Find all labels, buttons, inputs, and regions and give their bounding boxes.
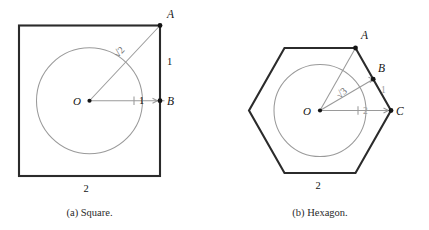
panel-hexagon: O A B C √3 1 2 2 (b) Hexagon. bbox=[249, 29, 404, 219]
hexagon-center-dot bbox=[318, 108, 322, 112]
square-side-measure: 2 bbox=[83, 183, 88, 194]
hexagon-side-measure: 2 bbox=[315, 180, 320, 191]
square-center-dot bbox=[87, 99, 91, 103]
square-vertex-a-dot bbox=[158, 23, 163, 28]
hexagon-vertex-b-dot bbox=[371, 77, 376, 82]
hexagon-circumradius-measure: 2 bbox=[363, 106, 368, 116]
hexagon-vertex-label-b: B bbox=[378, 62, 385, 74]
square-diagonal-measure: √2 bbox=[111, 44, 126, 59]
hexagon-caption: (b) Hexagon. bbox=[292, 207, 347, 219]
figure-root: O A B √2 1 1 2 (a) Square. bbox=[0, 0, 429, 230]
hexagon-center-label: O bbox=[303, 105, 311, 117]
hexagon-vertex-c-dot bbox=[389, 108, 394, 113]
square-diagonal-radius bbox=[90, 26, 161, 101]
geometry-figure-svg: O A B √2 1 1 2 (a) Square. bbox=[0, 0, 429, 230]
hexagon-vertex-label-a: A bbox=[360, 29, 369, 41]
panel-square: O A B √2 1 1 2 (a) Square. bbox=[19, 8, 175, 219]
square-caption: (a) Square. bbox=[66, 207, 112, 219]
hexagon-vertex-a-dot bbox=[353, 46, 358, 51]
square-horizontal-measure: 1 bbox=[139, 95, 144, 106]
square-vertex-label-a: A bbox=[166, 8, 175, 20]
square-vertex-b-dot bbox=[158, 98, 163, 103]
hexagon-radius-to-a bbox=[320, 48, 356, 111]
hexagon-vertex-label-c: C bbox=[396, 105, 404, 117]
hexagon-apothem-measure: √3 bbox=[334, 85, 349, 100]
square-center-label: O bbox=[73, 95, 81, 107]
square-vertex-label-b: B bbox=[167, 95, 174, 107]
hexagon-half-edge-measure: 1 bbox=[381, 85, 386, 95]
square-vertical-measure: 1 bbox=[167, 56, 172, 67]
